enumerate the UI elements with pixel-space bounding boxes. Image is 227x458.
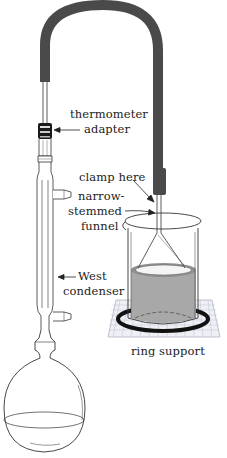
thermometer-adapter [38,123,52,162]
beaker [123,213,201,324]
label-adapter: adapter [84,123,130,136]
label-stemmed: stemmed [68,205,122,218]
label-funnel: funnel [81,220,119,233]
narrow-stemmed-funnel [138,195,185,268]
label-narrow: narrow- [78,190,125,203]
label-clamp-here: clamp here [79,171,145,184]
rubber-tubing [45,5,166,195]
label-condenser: condenser [63,285,124,298]
label-thermometer: thermometer [70,108,148,121]
round-bottom-flask [4,330,85,452]
label-west: West [78,270,107,283]
thermometer-stem [43,82,47,123]
label-ring-support: ring support [131,345,205,358]
apparatus-diagram: thermometer adapter clamp here narrow- s… [0,0,227,458]
west-condenser [37,162,71,330]
